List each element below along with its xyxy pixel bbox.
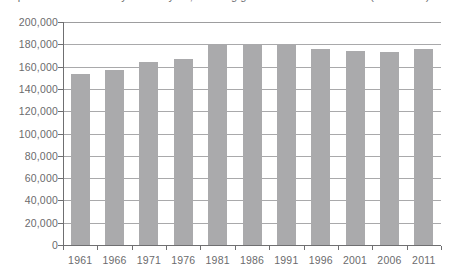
y-axis-label: 180,000 <box>0 39 58 50</box>
x-axis-tick <box>132 246 133 250</box>
x-axis-tick <box>407 246 408 250</box>
y-axis-label: 20,000 <box>0 218 58 229</box>
x-axis-tick <box>200 246 201 250</box>
bar <box>139 62 158 245</box>
y-axis-label-text: 0 <box>2 240 58 251</box>
bar <box>277 44 296 245</box>
x-axis-label: 1961 <box>63 254 97 266</box>
y-axis-label-text: 100,000 <box>2 129 58 140</box>
y-axis-label-text: 20,000 <box>2 218 58 229</box>
bar <box>380 52 399 245</box>
y-axis-label: 120,000 <box>0 106 58 117</box>
x-axis-tick <box>269 246 270 250</box>
bar <box>71 74 90 245</box>
y-axis-line <box>63 22 64 245</box>
bar <box>174 59 193 245</box>
y-axis-label: 0 <box>0 240 58 251</box>
x-axis-tick <box>372 246 373 250</box>
y-axis-label: 60,000 <box>0 173 58 184</box>
x-axis-tick <box>235 246 236 250</box>
bar <box>414 49 433 245</box>
x-axis-tick <box>338 246 339 250</box>
x-axis-label: 1966 <box>97 254 131 266</box>
y-axis-label: 100,000 <box>0 129 58 140</box>
x-axis-label: 2006 <box>372 254 406 266</box>
x-axis-tick <box>63 246 64 250</box>
x-axis-tick <box>441 246 442 250</box>
x-axis-label: 1976 <box>166 254 200 266</box>
y-axis-label-text: 40,000 <box>2 195 58 206</box>
x-axis-label: 1981 <box>200 254 234 266</box>
bar-chart-plot-area: 020,00040,00060,00080,000100,000120,0001… <box>0 0 456 277</box>
chart-figure: Population of Canada by census year, sho… <box>0 0 456 277</box>
x-axis-line <box>63 245 441 246</box>
y-axis-label: 160,000 <box>0 62 58 73</box>
y-axis-label-text: 180,000 <box>2 39 58 50</box>
y-axis-label-text: 200,000 <box>2 17 58 28</box>
y-axis-label: 40,000 <box>0 195 58 206</box>
x-axis-label: 1986 <box>235 254 269 266</box>
x-axis-label: 2011 <box>407 254 441 266</box>
y-axis-label-text: 80,000 <box>2 151 58 162</box>
x-axis-tick <box>97 246 98 250</box>
x-axis-label: 1971 <box>132 254 166 266</box>
y-axis-label: 80,000 <box>0 151 58 162</box>
y-axis-label: 200,000 <box>0 17 58 28</box>
bar <box>346 51 365 245</box>
bar <box>105 70 124 245</box>
x-axis-label: 1991 <box>269 254 303 266</box>
y-axis-label-text: 140,000 <box>2 84 58 95</box>
x-axis-tick <box>304 246 305 250</box>
y-axis-label-text: 120,000 <box>2 106 58 117</box>
x-axis-label: 2001 <box>338 254 372 266</box>
bar <box>311 49 330 245</box>
bar <box>208 45 227 245</box>
x-axis-label: 1996 <box>304 254 338 266</box>
y-axis-label-text: 160,000 <box>2 62 58 73</box>
y-axis-label: 140,000 <box>0 84 58 95</box>
y-axis-label-text: 60,000 <box>2 173 58 184</box>
gridline <box>63 22 441 23</box>
x-axis-tick <box>166 246 167 250</box>
bar <box>243 44 262 245</box>
